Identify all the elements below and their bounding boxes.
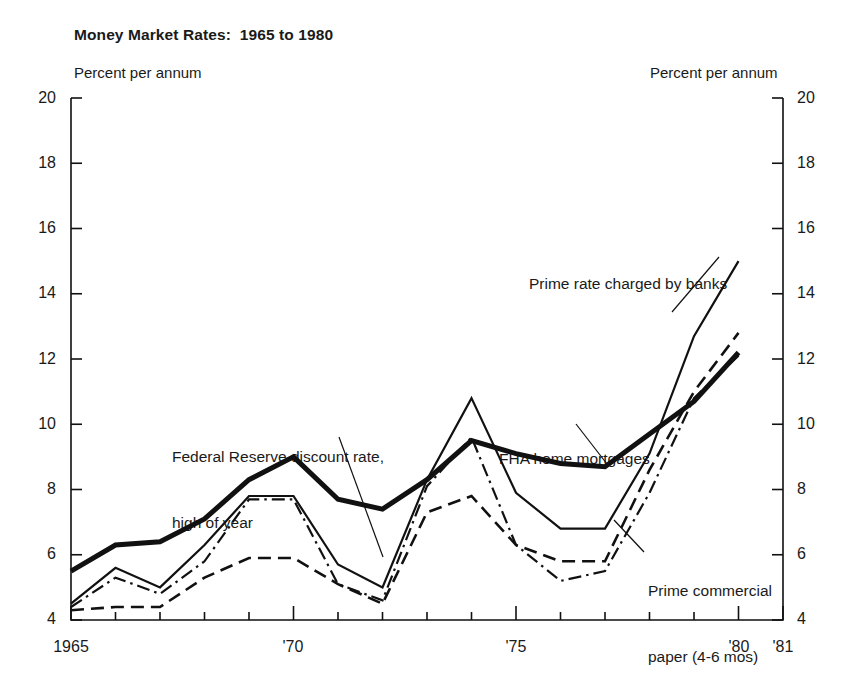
money-market-rates-figure: Money Market Rates: 1965 to 1980 Percent… bbox=[0, 0, 861, 695]
series-line bbox=[71, 353, 739, 572]
leader-federal-reserve-discount-rate bbox=[339, 437, 383, 557]
series-line bbox=[71, 356, 739, 607]
axis-frame bbox=[71, 98, 783, 620]
series-line bbox=[71, 261, 739, 604]
leader-fha-home-mortgages bbox=[576, 424, 607, 464]
plot-area bbox=[0, 0, 861, 695]
